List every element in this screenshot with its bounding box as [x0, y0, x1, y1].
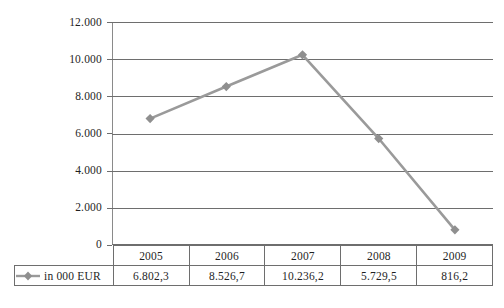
y-tick-label-12000: 12.000 — [46, 17, 102, 29]
table-corner-spacer — [15, 246, 114, 266]
plot-area — [112, 22, 493, 245]
legend-entry-in-000-eur: in 000 EUR — [15, 266, 114, 286]
y-tick-label-10000: 10.000 — [46, 54, 102, 66]
legend-label: in 000 EUR — [44, 270, 101, 282]
data-point-2005 — [146, 114, 155, 123]
table-value-2008: 5.729,5 — [341, 266, 417, 286]
data-table: 2005 2006 2007 2008 2009 in 000 EUR 6. — [14, 245, 493, 286]
y-tick-label-6000: 6.000 — [46, 128, 102, 140]
y-tick-label-8000: 8.000 — [46, 91, 102, 103]
legend-line-marker-icon — [15, 270, 41, 282]
table-value-2006: 8.526,7 — [189, 266, 265, 286]
table-header-2008: 2008 — [341, 246, 417, 266]
table-header-2006: 2006 — [189, 246, 265, 266]
table-row-values: in 000 EUR 6.802,3 8.526,7 10.236,2 5.72… — [15, 266, 493, 286]
table-header-2009: 2009 — [417, 246, 493, 266]
y-tick-label-2000: 2.000 — [46, 202, 102, 214]
series-line-in-000-eur — [112, 22, 493, 245]
data-point-2006 — [222, 82, 231, 91]
chart-figure: 12.000 10.000 8.000 6.000 4.000 2.000 0 — [0, 0, 504, 308]
legend-inner: in 000 EUR — [15, 270, 113, 282]
series-markers — [146, 50, 460, 234]
series-polyline — [150, 55, 455, 230]
table-row-years: 2005 2006 2007 2008 2009 — [15, 246, 493, 266]
table-value-2009: 816,2 — [417, 266, 493, 286]
table-header-2007: 2007 — [265, 246, 341, 266]
table-value-2007: 10.236,2 — [265, 266, 341, 286]
table-value-2005: 6.802,3 — [113, 266, 189, 286]
table-header-2005: 2005 — [113, 246, 189, 266]
y-tick-label-4000: 4.000 — [46, 165, 102, 177]
figure-caption — [14, 296, 344, 308]
